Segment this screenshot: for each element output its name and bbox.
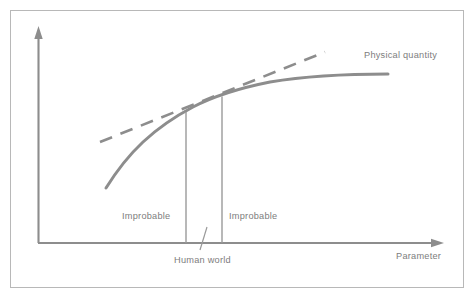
physical-quantity-label: Physical quantity: [364, 51, 437, 60]
improbable-right-label: Improbable: [229, 212, 277, 221]
value-axis: [34, 26, 42, 243]
value-axis-arrow-icon: [34, 26, 42, 39]
parameter-axis-label: Parameter: [396, 252, 441, 261]
physical-quantity-curve: [106, 74, 388, 188]
improbable-left-label: Improbable: [122, 212, 170, 221]
human-world-leader-line: [200, 227, 207, 250]
human-world-label: Human world: [174, 256, 231, 265]
figure-container: Physical quantity Parameter Improbable I…: [0, 0, 473, 299]
parameter-axis: [38, 239, 444, 247]
parameter-axis-arrow-icon: [431, 239, 444, 247]
